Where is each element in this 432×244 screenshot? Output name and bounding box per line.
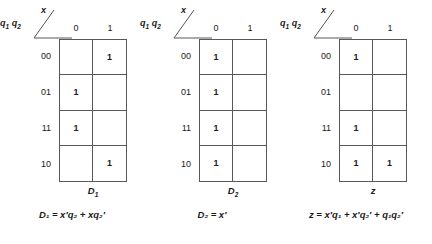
- kmap-cell: 1: [200, 146, 233, 181]
- kmap-cell: 1: [200, 111, 233, 146]
- kmap-cell: [60, 40, 93, 75]
- kmap-cell: [373, 111, 406, 146]
- row-header-00: 00: [23, 39, 55, 75]
- kmap-output-name: D2: [199, 186, 267, 198]
- kmap-grid: 1 1 1 1: [199, 39, 267, 182]
- kmap-cell: [93, 75, 126, 110]
- row-header-00: 00: [303, 39, 335, 75]
- kmap-z: x q1 q2 0 1 00 01 11 10 1 1 1 1 z z = x′…: [280, 0, 424, 244]
- column-header-1: 1: [233, 24, 267, 33]
- row-variable-label: q1 q2: [280, 19, 301, 30]
- kmap-cell: 1: [60, 111, 93, 146]
- row-header-01: 01: [163, 75, 195, 111]
- column-variable-label: x: [41, 6, 46, 15]
- kmap-cell: 1: [340, 111, 373, 146]
- kmap-grid: 1 1 1 1: [59, 39, 127, 182]
- row-header-01: 01: [303, 75, 335, 111]
- kmap-cell: [93, 111, 126, 146]
- kmap-equation: D₂ = x′: [140, 210, 284, 220]
- kmap-cell: 1: [200, 40, 233, 75]
- column-header-0: 0: [59, 24, 93, 33]
- kmap-D1: x q1 q2 0 1 00 01 11 10 1 1 1 1 D1 D₁ = …: [0, 0, 144, 244]
- kmap-cell: [233, 40, 266, 75]
- kmap-cell: [60, 146, 93, 181]
- kmap-cell: 1: [340, 146, 373, 181]
- column-header-0: 0: [339, 24, 373, 33]
- row-header-11: 11: [303, 111, 335, 147]
- row-header-10: 10: [163, 146, 195, 182]
- row-header-01: 01: [23, 75, 55, 111]
- column-variable-label: x: [181, 6, 186, 15]
- kmap-cell: 1: [60, 75, 93, 110]
- kmap-cell: [233, 75, 266, 110]
- row-header-11: 11: [163, 111, 195, 147]
- row-header-10: 10: [303, 146, 335, 182]
- row-header-00: 00: [163, 39, 195, 75]
- kmap-equation: z = x′q₁ + x′q₂′ + q₁q₂′: [280, 210, 432, 220]
- kmap-equation: D₁ = x′q₂ + xq₂′: [0, 210, 144, 220]
- kmap-cell: 1: [340, 40, 373, 75]
- kmap-cell: 1: [373, 146, 406, 181]
- row-header-10: 10: [23, 146, 55, 182]
- kmap-cell: 1: [93, 146, 126, 181]
- row-variable-label: q1 q2: [0, 19, 21, 30]
- kmap-D2: x q1 q2 0 1 00 01 11 10 1 1 1 1 D2 D₂ = …: [140, 0, 284, 244]
- row-variable-label: q1 q2: [140, 19, 161, 30]
- column-header-1: 1: [373, 24, 407, 33]
- kmap-cell: 1: [200, 75, 233, 110]
- kmap-cell: [233, 111, 266, 146]
- kmap-output-name: D1: [59, 186, 127, 198]
- column-header-1: 1: [93, 24, 127, 33]
- kmap-cell: [233, 146, 266, 181]
- kmap-cell: [373, 40, 406, 75]
- row-header-11: 11: [23, 111, 55, 147]
- kmap-grid: 1 1 1 1: [339, 39, 407, 182]
- kmap-output-name: z: [339, 186, 407, 198]
- kmap-figure-page: { "figure": { "title": "Karnaugh maps fo…: [0, 0, 432, 244]
- column-header-0: 0: [199, 24, 233, 33]
- column-variable-label: x: [321, 6, 326, 15]
- kmap-cell: [373, 75, 406, 110]
- kmap-cell: [340, 75, 373, 110]
- kmap-cell: 1: [93, 40, 126, 75]
